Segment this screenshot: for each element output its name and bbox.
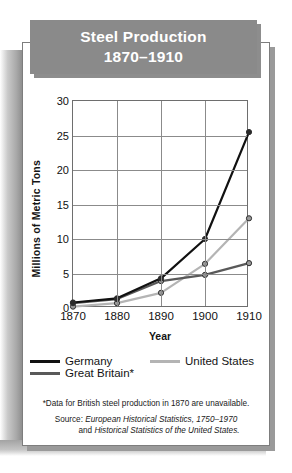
chart-legend: Germany United States Great Britain* (30, 355, 262, 379)
gridline-horizontal (73, 136, 247, 137)
source-prefix: Source: (55, 415, 86, 424)
y-axis-tick-label: 30 (47, 95, 69, 107)
gridline-horizontal (73, 274, 247, 275)
legend-row-1: Germany United States (30, 355, 262, 367)
chart-title-line1: Steel Production (80, 27, 206, 47)
legend-swatch-great-britain (30, 372, 60, 375)
source-title-1: European Historical Statistics, 1750–197… (85, 415, 237, 424)
x-axis-tick-label: 1880 (104, 310, 130, 322)
y-axis-tick-label: 15 (47, 199, 69, 211)
x-axis-title: Year (72, 330, 248, 342)
y-axis-tick-label: 5 (47, 268, 69, 280)
data-point (246, 129, 251, 134)
legend-swatch-united-states (150, 360, 180, 363)
legend-label-great-britain: Great Britain* (65, 367, 134, 379)
legend-item-great-britain: Great Britain* (30, 367, 150, 379)
footnote-text: *Data for British steel production in 18… (30, 398, 262, 409)
source-and: and (78, 426, 94, 435)
chart-title-banner: Steel Production 1870–1910 (30, 20, 257, 74)
gridline-vertical (117, 101, 118, 306)
x-axis-tick-label: 1900 (192, 310, 218, 322)
source-title-2: Historical Statistics of the United Stat… (94, 426, 239, 435)
gridline-horizontal (73, 205, 247, 206)
gridline-horizontal (73, 170, 247, 171)
y-axis-tick-label: 10 (47, 233, 69, 245)
legend-label-united-states: United States (185, 355, 254, 367)
y-axis-tick-label: 20 (47, 164, 69, 176)
y-axis-tick-label: 25 (47, 130, 69, 142)
legend-item-united-states: United States (150, 355, 254, 367)
x-axis-tick-label: 1870 (60, 310, 86, 322)
chart-notes: *Data for British steel production in 18… (30, 398, 262, 436)
legend-label-germany: Germany (65, 355, 112, 367)
gridline-vertical (205, 101, 206, 306)
y-axis-title: Millions of Metric Tons (28, 144, 44, 294)
data-point (70, 300, 75, 305)
chart-title-line2: 1870–1910 (104, 47, 183, 67)
x-axis-tick-label: 1890 (148, 310, 174, 322)
gridline-horizontal (73, 239, 247, 240)
frame-left-shadow (0, 50, 22, 448)
legend-item-germany: Germany (30, 355, 150, 367)
data-point (246, 216, 251, 221)
legend-row-2: Great Britain* (30, 367, 262, 379)
legend-swatch-germany (30, 360, 60, 363)
x-axis-tick-label: 1910 (236, 310, 262, 322)
plot-canvas: 05101520253018701880189019001910 (72, 100, 248, 307)
gridline-vertical (161, 101, 162, 306)
chart-figure: Steel Production 1870–1910 Millions of M… (0, 0, 292, 473)
source-text: Source: European Historical Statistics, … (30, 415, 262, 436)
chart-plot-area: Millions of Metric Tons 0510152025301870… (30, 92, 262, 342)
data-point (246, 261, 251, 266)
source-line-2: and Historical Statistics of the United … (30, 426, 262, 437)
